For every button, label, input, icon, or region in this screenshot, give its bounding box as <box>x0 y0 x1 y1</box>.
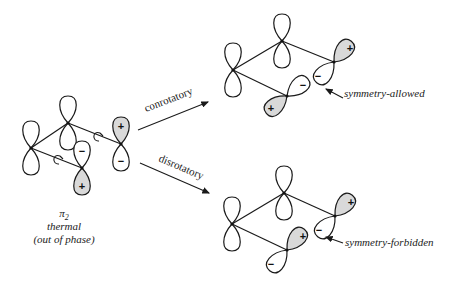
pointer-arrow-icon <box>326 89 343 98</box>
disrotatory-path: disrotatory <box>140 152 209 193</box>
plus-sign: + <box>79 180 85 192</box>
disrotatory-label: disrotatory <box>157 152 206 182</box>
phase-note: (out of phase) <box>33 233 94 246</box>
minus-sign: − <box>300 79 306 91</box>
plus-sign: + <box>118 120 124 132</box>
plus-sign: + <box>300 230 306 242</box>
symmetry-forbidden-label: symmetry-forbidden <box>345 236 434 248</box>
disrotatory-product: + − + − <box>224 166 359 276</box>
pericyclic-diagram: − + + − π2 thermal (out of phase) conrot… <box>0 0 449 281</box>
plus-sign: + <box>268 102 274 114</box>
minus-sign: − <box>268 258 274 270</box>
minus-sign: − <box>316 224 322 236</box>
reactant-diene: − + + − <box>23 96 130 195</box>
symmetry-allowed-label: symmetry-allowed <box>344 87 425 99</box>
condition-label: thermal <box>47 220 81 232</box>
plus-sign: + <box>348 196 354 208</box>
conrotatory-product: + − − + <box>225 14 358 120</box>
minus-sign: − <box>79 145 85 157</box>
minus-sign: − <box>315 70 321 82</box>
pointer-arrow-icon <box>326 237 343 243</box>
conrotatory-path: conrotatory <box>138 84 208 130</box>
conrotatory-label: conrotatory <box>142 84 194 114</box>
minus-sign: − <box>118 155 124 167</box>
plus-sign: + <box>347 42 353 54</box>
